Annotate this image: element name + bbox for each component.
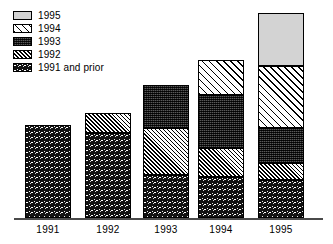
bar-segment xyxy=(258,128,304,163)
bar-1991 xyxy=(25,0,71,244)
stacked-bar-chart: 19951994199319921991 and prior 199119921… xyxy=(0,0,333,244)
x-axis-tick-label: 1993 xyxy=(136,224,196,236)
bar-segment xyxy=(85,133,131,218)
bar-1994 xyxy=(198,0,244,244)
bar-1992 xyxy=(85,0,131,244)
bar-segment xyxy=(258,13,304,66)
x-axis-tick-label: 1994 xyxy=(191,224,251,236)
bar-segment xyxy=(143,85,189,128)
bar-segment xyxy=(198,60,244,95)
x-axis-tick-label: 1992 xyxy=(78,224,138,236)
bar-segment xyxy=(258,180,304,218)
x-axis-tick-label: 1991 xyxy=(18,224,78,236)
bar-segment xyxy=(198,148,244,177)
bar-1993 xyxy=(143,0,189,244)
bar-segment xyxy=(198,95,244,148)
bar-segment xyxy=(143,128,189,175)
bar-segment xyxy=(198,177,244,218)
bar-segment xyxy=(25,125,71,218)
bar-segment xyxy=(258,163,304,180)
bar-segment xyxy=(258,66,304,128)
plot-area: 19911992199319941995 xyxy=(0,0,333,244)
bar-segment xyxy=(85,113,131,133)
bar-segment xyxy=(143,175,189,218)
bar-1995 xyxy=(258,0,304,244)
x-axis-tick-label: 1995 xyxy=(251,224,311,236)
